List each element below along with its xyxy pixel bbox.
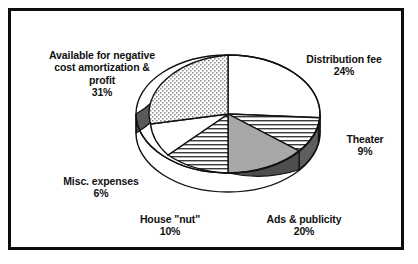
pie-label-distribution-fee: Distribution fee 24%	[282, 40, 406, 90]
pie-chart-figure: Available for negative cost amortization…	[0, 0, 418, 264]
pie-label-house-nut-text: House "nut"	[140, 213, 200, 225]
pie-label-distribution-fee-text: Distribution fee	[306, 53, 381, 65]
pie-label-distribution-fee-pct: 24%	[282, 65, 406, 78]
pie-label-theater-text: Theater	[346, 133, 383, 145]
pie-label-available-pct: 31%	[26, 86, 178, 99]
pie-label-available: Available for negative cost amortization…	[26, 36, 178, 111]
pie-label-theater: Theater 9%	[326, 120, 404, 170]
pie-label-misc-expenses-text: Misc. expenses	[63, 175, 139, 187]
pie-label-available-text: Available for negative cost amortization…	[49, 49, 155, 86]
pie-label-theater-pct: 9%	[326, 145, 404, 158]
pie-label-house-nut-pct: 10%	[118, 225, 222, 238]
pie-label-misc-expenses: Misc. expenses 6%	[44, 162, 158, 212]
pie-label-ads-publicity-pct: 20%	[248, 225, 360, 238]
pie-label-ads-publicity: Ads & publicity 20%	[248, 200, 360, 250]
pie-label-misc-expenses-pct: 6%	[44, 187, 158, 200]
pie-label-ads-publicity-text: Ads & publicity	[267, 213, 342, 225]
